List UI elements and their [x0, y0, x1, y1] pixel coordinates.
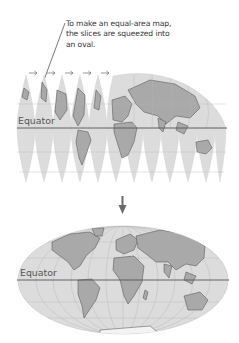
gore-3 — [53, 75, 71, 182]
gore-arrows — [29, 71, 109, 75]
oval-map — [15, 226, 231, 336]
equator-label-bottom: Equator — [20, 267, 57, 278]
gore-map — [17, 72, 227, 182]
diagram-canvas — [0, 0, 239, 343]
down-arrow-icon — [119, 196, 127, 214]
right-arrow-icon — [101, 71, 109, 75]
gore-5 — [89, 75, 107, 182]
right-arrow-icon — [65, 71, 73, 75]
leader-line — [44, 23, 65, 80]
right-arrow-icon — [47, 71, 55, 75]
right-arrow-icon — [83, 71, 91, 75]
right-arrow-icon — [29, 71, 37, 75]
equator-label-top: Equator — [18, 115, 55, 126]
